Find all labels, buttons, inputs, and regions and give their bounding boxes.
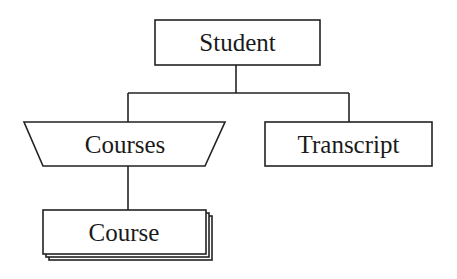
node-courses[interactable]: Courses bbox=[24, 122, 225, 166]
student-label: Student bbox=[199, 29, 275, 56]
transcript-label: Transcript bbox=[298, 131, 400, 158]
course-label: Course bbox=[89, 219, 160, 246]
node-student[interactable]: Student bbox=[155, 20, 320, 65]
node-course[interactable]: Course bbox=[43, 210, 212, 260]
diagram-canvas: Student Courses Transcript Course bbox=[0, 0, 457, 279]
courses-label: Courses bbox=[85, 131, 166, 158]
node-transcript[interactable]: Transcript bbox=[265, 122, 432, 166]
